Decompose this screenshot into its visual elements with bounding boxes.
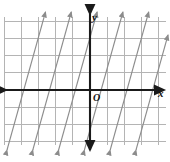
graph-line-1: [7, 12, 46, 150]
x-axis-label: x: [158, 88, 164, 99]
coordinate-plane: [0, 0, 170, 162]
grid-vertical-lines: [4, 17, 159, 145]
origin-label: O: [93, 93, 100, 103]
y-axis-label: y: [92, 12, 97, 23]
parallel-lines-group: [7, 12, 168, 150]
graph-line-3: [59, 12, 98, 150]
graph-figure: y x O: [0, 0, 170, 162]
graph-line-5: [110, 12, 149, 150]
